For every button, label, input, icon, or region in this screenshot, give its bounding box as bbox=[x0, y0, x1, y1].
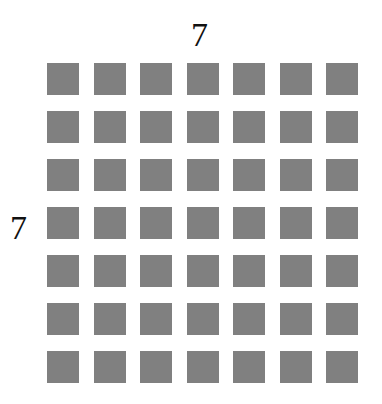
square bbox=[280, 159, 312, 191]
rows-count-label: 7 bbox=[10, 211, 27, 245]
square bbox=[280, 303, 312, 335]
square bbox=[140, 255, 172, 287]
square bbox=[326, 255, 358, 287]
square bbox=[187, 111, 219, 143]
square bbox=[326, 159, 358, 191]
square bbox=[280, 63, 312, 95]
square bbox=[94, 159, 126, 191]
square bbox=[233, 207, 265, 239]
square bbox=[326, 207, 358, 239]
square bbox=[187, 207, 219, 239]
square bbox=[187, 255, 219, 287]
square bbox=[140, 351, 172, 383]
square bbox=[326, 111, 358, 143]
square bbox=[187, 159, 219, 191]
square bbox=[280, 111, 312, 143]
square-array bbox=[47, 63, 358, 383]
square bbox=[47, 111, 79, 143]
square bbox=[47, 255, 79, 287]
square bbox=[326, 63, 358, 95]
square bbox=[326, 351, 358, 383]
columns-count-label: 7 bbox=[191, 18, 208, 52]
square bbox=[94, 255, 126, 287]
square bbox=[140, 303, 172, 335]
square bbox=[94, 351, 126, 383]
square bbox=[47, 351, 79, 383]
square bbox=[233, 63, 265, 95]
square bbox=[187, 303, 219, 335]
square bbox=[280, 255, 312, 287]
square bbox=[280, 351, 312, 383]
square bbox=[233, 255, 265, 287]
square bbox=[94, 303, 126, 335]
square bbox=[47, 159, 79, 191]
square bbox=[94, 63, 126, 95]
square bbox=[140, 111, 172, 143]
square bbox=[280, 207, 312, 239]
square bbox=[47, 63, 79, 95]
square bbox=[47, 303, 79, 335]
square bbox=[233, 111, 265, 143]
square bbox=[47, 207, 79, 239]
square bbox=[326, 303, 358, 335]
square bbox=[94, 111, 126, 143]
square bbox=[140, 159, 172, 191]
square bbox=[140, 63, 172, 95]
square bbox=[94, 207, 126, 239]
square bbox=[140, 207, 172, 239]
square bbox=[233, 159, 265, 191]
square bbox=[233, 351, 265, 383]
square bbox=[187, 63, 219, 95]
square bbox=[187, 351, 219, 383]
square bbox=[233, 303, 265, 335]
